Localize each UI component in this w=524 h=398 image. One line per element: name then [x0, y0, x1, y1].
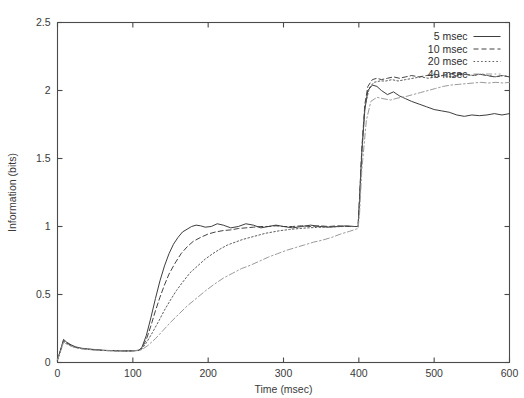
- y-tick-label: 1: [45, 220, 51, 232]
- legend-label-40-msec: 40 msec: [428, 68, 468, 80]
- figure-container: 010020030040050060000.511.522.5 5 msec10…: [0, 0, 524, 398]
- x-tick-label: 200: [199, 367, 217, 379]
- x-tick-label: 0: [55, 367, 61, 379]
- x-tick-label: 500: [425, 367, 443, 379]
- x-tick-label: 100: [124, 367, 142, 379]
- legend-label-10-msec: 10 msec: [428, 43, 468, 55]
- y-axis-title: Information (bits): [6, 153, 18, 232]
- series-line-40-msec: [58, 82, 510, 359]
- data-series-group: [58, 73, 510, 360]
- y-tick-label: 1.5: [36, 152, 51, 164]
- chart-canvas: 010020030040050060000.511.522.5 5 msec10…: [0, 0, 524, 398]
- series-line-20-msec: [58, 74, 510, 360]
- x-tick-label: 400: [350, 367, 368, 379]
- y-tick-label: 2.5: [36, 16, 51, 28]
- x-tick-label: 300: [275, 367, 293, 379]
- series-line-10-msec: [58, 73, 510, 360]
- y-tick-label: 0.5: [36, 288, 51, 300]
- legend-label-5-msec: 5 msec: [434, 30, 468, 42]
- chart-legend: 5 msec10 msec20 msec40 msec: [428, 30, 501, 80]
- x-tick-label: 600: [501, 367, 519, 379]
- series-line-5-msec: [58, 85, 510, 360]
- y-tick-label: 0: [45, 356, 51, 368]
- x-axis-title: Time (msec): [255, 383, 313, 395]
- legend-label-20-msec: 20 msec: [428, 55, 468, 67]
- y-tick-label: 2: [45, 84, 51, 96]
